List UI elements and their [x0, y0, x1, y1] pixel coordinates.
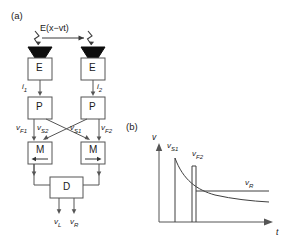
propagation-arrow — [42, 36, 84, 41]
velocity-label-vF1: vF1 — [16, 124, 27, 134]
antenna-left-zigzag — [35, 31, 42, 45]
chart-annotation-vR: vR — [245, 179, 253, 189]
current-label-i1: i1 — [22, 83, 27, 93]
output-vR-arrow — [72, 198, 77, 214]
output-label-vL: vL — [54, 218, 61, 228]
chart-y-axis-label: v — [152, 133, 156, 142]
box-label-E2: E — [89, 63, 96, 73]
velocity-label-vS1: vS1 — [70, 124, 81, 134]
box-label-D: D — [63, 182, 70, 192]
connector-P1-M1 — [32, 119, 37, 141]
y-axis — [156, 143, 162, 222]
box-label-P2: P — [89, 102, 96, 112]
chart-x-axis-label: t — [276, 228, 278, 237]
connector-M2-D — [83, 164, 101, 185]
connector-M1-D — [32, 164, 50, 185]
antenna-left-horn — [28, 47, 52, 58]
velocity-label-vF2: vF2 — [101, 124, 112, 134]
cross-link-P1-to-M2 — [46, 119, 90, 140]
panel-b-tag: (b) — [126, 122, 138, 132]
output-label-vR: vR — [70, 218, 78, 228]
velocity-label-vS2: vS2 — [37, 124, 48, 134]
antenna-right-zigzag — [88, 31, 95, 45]
connector-E1-P1 — [38, 80, 43, 96]
box-label-M2: M — [89, 145, 97, 155]
box-label-P1: P — [36, 102, 43, 112]
figure-root: (a) E(x−vt) — [0, 0, 290, 248]
series-vF2 — [192, 166, 196, 222]
x-axis — [159, 218, 273, 225]
output-vL-arrow — [57, 198, 62, 214]
box-label-M1: M — [36, 145, 44, 155]
connector-E2-P2 — [91, 80, 96, 96]
chart-annotation-vF2: vF2 — [192, 150, 203, 160]
chart-annotation-vS1: vS1 — [167, 142, 178, 152]
current-label-i2: i2 — [97, 83, 102, 93]
series-vS1 — [175, 158, 269, 222]
box-label-E1: E — [36, 63, 43, 73]
antenna-right-horn — [81, 47, 105, 58]
